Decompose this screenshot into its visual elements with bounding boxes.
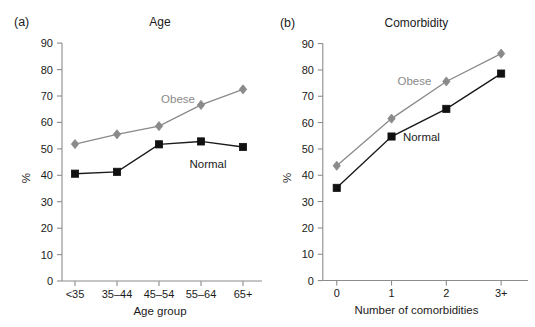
panel-a-series-normal: Normal: [71, 138, 246, 177]
series-label-obese-b: Obese: [398, 75, 432, 87]
data-point-obese-b-2: [443, 77, 450, 86]
x-tick-label-a-2: 45–54: [144, 288, 175, 300]
y-tick-label-b-70: 70: [302, 90, 314, 102]
x-tick-label-a-4: 65+: [234, 288, 253, 300]
x-tick-label-a-1: 35–44: [102, 288, 133, 300]
data-point-obese-a-0: [71, 139, 78, 148]
y-tick-label-a-30: 30: [41, 196, 53, 208]
y-tick-label-a-80: 80: [41, 64, 53, 76]
data-point-normal-b-0: [333, 184, 340, 191]
y-tick-label-a-40: 40: [41, 169, 53, 181]
panel-b-series-normal: Normal: [333, 70, 505, 191]
y-tick-label-b-40: 40: [302, 169, 314, 181]
y-axis-label-a: %: [20, 173, 32, 183]
data-point-normal-b-1: [388, 133, 395, 140]
panel-a-axes: 0 10 20 30 40 50 60 70 80 90 <35 35–44 4…: [41, 37, 262, 300]
panel-letter-a: (a): [14, 15, 29, 29]
data-point-normal-b-2: [443, 105, 450, 112]
data-point-normal-a-1: [113, 168, 120, 175]
chart-panel-comorbidity: (b) Comorbidity % Number of comorbiditie…: [267, 0, 534, 327]
x-axis-label-a: Age group: [133, 305, 186, 317]
data-point-obese-b-0: [333, 161, 340, 170]
data-point-normal-a-4: [239, 143, 246, 150]
figure-container: (a) Age % Age group 0 10 20 30 40 50: [0, 0, 535, 327]
series-label-normal-b: Normal: [403, 131, 440, 143]
y-tick-label-b-90: 90: [302, 38, 314, 50]
chart-panel-age: (a) Age % Age group 0 10 20 30 40 50: [0, 0, 267, 327]
data-point-normal-a-3: [197, 138, 204, 145]
x-tick-label-b-1: 1: [388, 287, 394, 299]
data-point-normal-a-0: [71, 170, 78, 177]
data-point-normal-b-3: [498, 70, 505, 77]
x-axis-label-b: Number of comorbidities: [354, 304, 478, 316]
data-point-obese-b-1: [388, 114, 395, 123]
y-tick-label-a-0: 0: [47, 275, 53, 287]
series-label-normal-a: Normal: [189, 158, 226, 170]
x-tick-label-b-0: 0: [334, 287, 340, 299]
y-tick-label-b-30: 30: [302, 196, 314, 208]
x-tick-label-b-2: 2: [443, 287, 449, 299]
y-tick-label-b-20: 20: [302, 222, 314, 234]
y-tick-label-b-50: 50: [302, 143, 314, 155]
data-point-normal-a-2: [155, 141, 162, 148]
markers-obese-b: [333, 49, 505, 170]
y-axis-label-b: %: [281, 173, 293, 183]
x-tick-label-a-0: <35: [66, 288, 85, 300]
y-tick-label-b-0: 0: [308, 275, 314, 287]
y-tick-label-a-20: 20: [41, 222, 53, 234]
panel-a-annotations: (a) Age % Age group: [14, 15, 187, 317]
panel-b-series-obese: Obese: [333, 49, 505, 170]
x-tick-label-a-3: 55–64: [186, 288, 217, 300]
y-tick-label-a-70: 70: [41, 90, 53, 102]
line-obese-b: [337, 54, 501, 166]
y-tick-label-a-10: 10: [41, 249, 53, 261]
data-point-obese-a-1: [113, 130, 120, 139]
panel-title-age: Age: [149, 15, 171, 29]
panel-letter-b: (b): [280, 16, 295, 30]
panel-a-series-obese: Obese: [71, 85, 246, 149]
y-tick-label-a-90: 90: [41, 37, 53, 49]
x-tick-label-b-3: 3+: [495, 287, 507, 299]
panel-b-annotations: (b) Comorbidity % Number of comorbiditie…: [280, 16, 479, 317]
data-point-obese-b-3: [497, 49, 504, 58]
data-point-obese-a-4: [239, 85, 246, 94]
y-tick-label-b-80: 80: [302, 64, 314, 76]
data-point-obese-a-2: [155, 122, 162, 131]
line-obese-a: [75, 89, 243, 144]
y-tick-label-b-10: 10: [302, 248, 314, 260]
data-point-obese-a-3: [197, 100, 204, 109]
series-label-obese-a: Obese: [161, 93, 195, 105]
y-tick-label-a-50: 50: [41, 143, 53, 155]
panel-title-comorbidity: Comorbidity: [385, 16, 449, 30]
y-tick-label-b-60: 60: [302, 117, 314, 129]
y-tick-label-a-60: 60: [41, 116, 53, 128]
